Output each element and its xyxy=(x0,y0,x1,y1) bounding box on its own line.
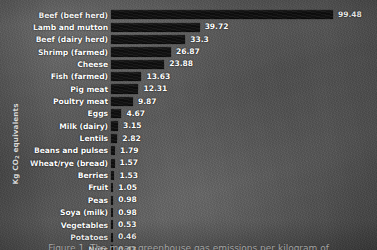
bar-fill xyxy=(111,134,117,143)
bar-value-label: 4.67 xyxy=(126,109,145,118)
bar-fill xyxy=(111,233,113,242)
bar xyxy=(111,159,115,168)
bar xyxy=(111,183,113,192)
bar-row: Cheese23.88 xyxy=(0,58,377,70)
bar-fill xyxy=(111,159,115,168)
figure-caption: Figure 1. The mean greenhouse gas emissi… xyxy=(0,243,377,250)
bar-category-label: Beef (dairy herd) xyxy=(0,35,108,44)
bar xyxy=(111,109,121,118)
bar-value-label: 23.88 xyxy=(169,59,193,68)
bar xyxy=(111,208,113,217)
bar-value-label: 1.53 xyxy=(119,171,138,180)
bar-row: Shrimp (farmed)26.87 xyxy=(0,46,377,58)
bar-category-label: Berries xyxy=(0,171,108,180)
bar-row: Vegetables0.53 xyxy=(0,219,377,231)
bar-value-label: 3.15 xyxy=(123,121,142,130)
bar-row: Poultry meat9.87 xyxy=(0,95,377,107)
bar-value-label: 26.87 xyxy=(176,47,200,56)
bar-row: Potatoes0.46 xyxy=(0,231,377,243)
bar-category-label: Fish (farmed) xyxy=(0,72,108,81)
bar-value-label: 9.87 xyxy=(138,97,157,106)
bar-row: Pig meat12.31 xyxy=(0,83,377,95)
bar-row: Beef (beef herd)99.48 xyxy=(0,9,377,21)
bar-fill xyxy=(111,146,115,155)
bar-category-label: Potatoes xyxy=(0,233,108,242)
bar-value-label: 13.63 xyxy=(146,72,170,81)
bar-fill xyxy=(111,97,133,106)
bar xyxy=(111,84,138,93)
bar-category-label: Wheat/rye (bread) xyxy=(0,159,108,168)
bar xyxy=(111,220,113,229)
bar xyxy=(111,23,200,32)
bar-value-label: 0.98 xyxy=(118,208,137,217)
bar-fill xyxy=(111,47,171,56)
bar-fill xyxy=(111,10,333,19)
bar-row: Milk (dairy)3.15 xyxy=(0,120,377,132)
bar xyxy=(111,72,141,81)
bar-row: Lamb and mutton39.72 xyxy=(0,21,377,33)
bar-value-label: 0.53 xyxy=(118,220,137,229)
bar-row: Soya (milk)0.98 xyxy=(0,207,377,219)
bar-row: Fruit1.05 xyxy=(0,182,377,194)
bar-category-label: Cheese xyxy=(0,60,108,69)
bar xyxy=(111,47,171,56)
bar-fill xyxy=(111,35,185,44)
bar-category-label: Eggs xyxy=(0,109,108,118)
bar-fill xyxy=(111,60,164,69)
bar-value-label: 2.82 xyxy=(122,134,141,143)
bar xyxy=(111,196,113,205)
bar-fill xyxy=(111,23,200,32)
bar-row: Berries1.53 xyxy=(0,169,377,181)
bar-rows: Beef (beef herd)99.48Lamb and mutton39.7… xyxy=(0,9,377,250)
bar-category-label: Milk (dairy) xyxy=(0,122,108,131)
bar-fill xyxy=(111,109,121,118)
bar xyxy=(111,121,118,130)
bar-row: Lentils2.82 xyxy=(0,132,377,144)
bar-category-label: Shrimp (farmed) xyxy=(0,48,108,57)
bar xyxy=(111,233,113,242)
bar-row: Beef (dairy herd)33.3 xyxy=(0,34,377,46)
bar-fill xyxy=(111,171,114,180)
bar-value-label: 0.98 xyxy=(118,195,137,204)
bar-category-label: Lentils xyxy=(0,134,108,143)
bar xyxy=(111,134,117,143)
chart-figure: Kg CO2 equivalents Beef (beef herd)99.48… xyxy=(0,0,377,250)
bar-value-label: 0.46 xyxy=(118,232,137,241)
bar-fill xyxy=(111,196,113,205)
bar-fill xyxy=(111,84,138,93)
bar-category-label: Beans and pulses xyxy=(0,146,108,155)
bar xyxy=(111,97,133,106)
bar-fill xyxy=(111,72,141,81)
bar-row: Fish (farmed)13.63 xyxy=(0,71,377,83)
bar-category-label: Vegetables xyxy=(0,221,108,230)
bar-row: Beans and pulses1.79 xyxy=(0,145,377,157)
bar-value-label: 1.79 xyxy=(120,146,139,155)
bar-value-label: 33.3 xyxy=(190,35,209,44)
bar-row: Eggs4.67 xyxy=(0,108,377,120)
bar xyxy=(111,146,115,155)
bar-row: Peas0.98 xyxy=(0,194,377,206)
bar-category-label: Poultry meat xyxy=(0,97,108,106)
bar-value-label: 1.05 xyxy=(118,183,137,192)
bar xyxy=(111,171,114,180)
bar xyxy=(111,10,333,19)
bar xyxy=(111,35,185,44)
bar-value-label: 99.48 xyxy=(338,10,362,19)
bar-fill xyxy=(111,121,118,130)
bar-category-label: Beef (beef herd) xyxy=(0,11,108,20)
bar-fill xyxy=(111,183,113,192)
bar-category-label: Soya (milk) xyxy=(0,208,108,217)
bar-category-label: Lamb and mutton xyxy=(0,23,108,32)
bar-value-label: 1.57 xyxy=(120,158,139,167)
bar-value-label: 12.31 xyxy=(143,84,167,93)
bar-category-label: Fruit xyxy=(0,183,108,192)
bar-fill xyxy=(111,208,113,217)
bar-value-label: 39.72 xyxy=(205,22,229,31)
bar-category-label: Pig meat xyxy=(0,85,108,94)
bar-fill xyxy=(111,220,113,229)
bar-row: Wheat/rye (bread)1.57 xyxy=(0,157,377,169)
bar xyxy=(111,60,164,69)
bar-category-label: Peas xyxy=(0,196,108,205)
